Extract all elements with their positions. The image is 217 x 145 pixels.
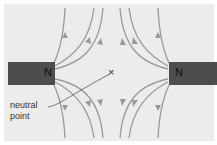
neutral-point-marker: × <box>108 66 114 78</box>
neutral-label-line2: point <box>10 111 30 121</box>
magnet-left-pole-label: N <box>44 66 52 78</box>
magnet-right-pole-label: N <box>175 66 183 78</box>
magnetic-field-diagram: N N × neutral point <box>0 0 217 145</box>
neutral-label-line1: neutral <box>10 100 38 110</box>
